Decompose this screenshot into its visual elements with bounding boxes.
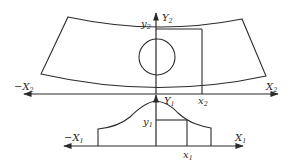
transformation-diagram: Y2 y2 −X2 X2 x2 Y1 y1 −X1 bbox=[0, 0, 294, 168]
x2-axis-label: X2 bbox=[265, 81, 277, 94]
y2-point-label: y2 bbox=[140, 18, 151, 31]
neg-x1-axis-label: −X1 bbox=[64, 132, 84, 145]
x1-point-label: x1 bbox=[183, 149, 193, 162]
x1-axis-label: X1 bbox=[234, 132, 246, 145]
y1-point-label: y1 bbox=[142, 116, 153, 129]
inscribed-circle bbox=[139, 39, 175, 75]
y2-axis-label: Y2 bbox=[162, 12, 173, 25]
lower-panel: Y1 y1 −X1 X1 x1 bbox=[64, 95, 246, 162]
curved-strip-outline bbox=[41, 17, 266, 88]
neg-x2-axis-label: −X2 bbox=[14, 81, 34, 94]
bell-profile-curve bbox=[98, 101, 211, 146]
x2-point-label: x2 bbox=[198, 95, 208, 108]
upper-panel: Y2 y2 −X2 X2 x2 bbox=[14, 12, 278, 108]
